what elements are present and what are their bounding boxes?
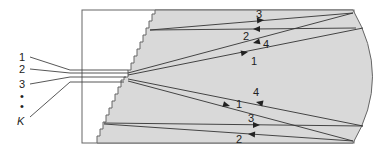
input-label-3: 3 xyxy=(19,78,25,90)
lower-label-4: 4 xyxy=(253,86,259,98)
lower-label-1: 1 xyxy=(236,98,242,110)
upper-label-1: 1 xyxy=(251,55,257,67)
input-label-1: 1 xyxy=(19,51,25,63)
input-dot-2: • xyxy=(20,100,24,112)
upper-label-4: 4 xyxy=(263,38,269,50)
lower-label-3: 3 xyxy=(248,112,254,124)
upper-label-2: 2 xyxy=(243,30,249,42)
diagram-canvas: 1 2 3 • • K 3 2 4 1 4 1 3 2 xyxy=(0,0,392,153)
upper-label-3: 3 xyxy=(256,8,262,20)
input-label-2: 2 xyxy=(19,63,25,75)
input-label-k: K xyxy=(17,115,25,127)
lower-label-2: 2 xyxy=(236,133,242,145)
